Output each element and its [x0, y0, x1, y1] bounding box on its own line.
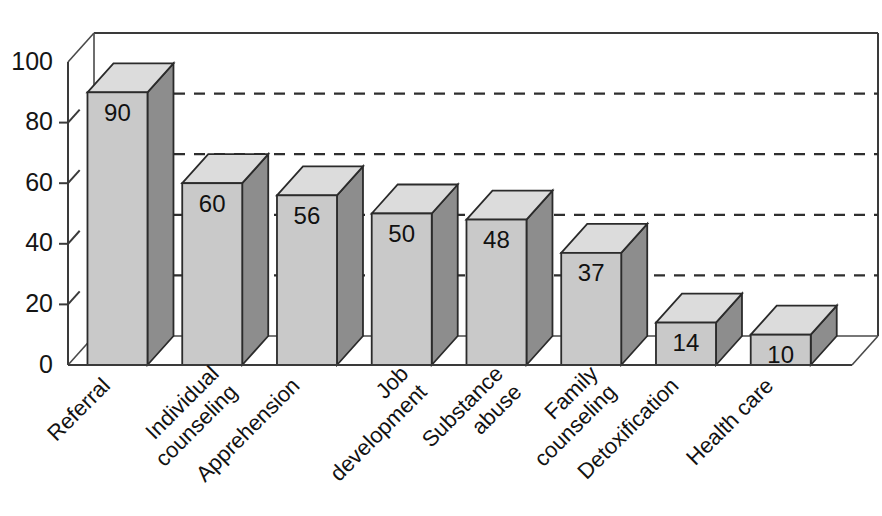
y-axis-label-20: 20 [25, 289, 53, 317]
bar-side-face [147, 63, 173, 365]
bar-value-label: 60 [199, 190, 226, 217]
bar-6: 37 [561, 224, 647, 365]
bar-side-face [242, 154, 268, 365]
bar-value-label: 14 [673, 329, 700, 356]
bar-value-label: 56 [294, 202, 321, 229]
y-axis-label-100: 100 [11, 47, 53, 75]
y-axis-label-40: 40 [25, 228, 53, 256]
bar-value-label: 50 [388, 220, 415, 247]
bar-3: 56 [277, 166, 363, 365]
bar-value-label: 48 [483, 226, 510, 253]
chart-container: 020406080100 9060565048371410 ReferralIn… [0, 0, 882, 516]
bar-side-face [432, 185, 458, 366]
bar-2: 60 [182, 154, 268, 365]
y-axis-label-80: 80 [25, 107, 53, 135]
bar-chart-3d: 020406080100 9060565048371410 ReferralIn… [0, 0, 882, 516]
bar-1: 90 [87, 63, 173, 365]
bar-value-label: 10 [767, 341, 794, 368]
bar-value-label: 90 [104, 99, 131, 126]
y-axis-label-60: 60 [25, 168, 53, 196]
bar-4: 50 [372, 185, 458, 366]
bar-side-face [337, 166, 363, 365]
bar-side-face [526, 191, 552, 365]
y-axis-label-0: 0 [39, 350, 53, 378]
bar-front-face [87, 92, 147, 365]
bar-5: 48 [466, 191, 552, 365]
bar-value-label: 37 [578, 259, 605, 286]
